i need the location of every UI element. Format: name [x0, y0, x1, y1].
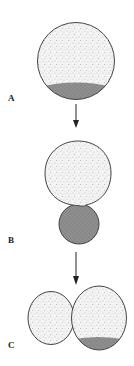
stage-b-cell [45, 141, 111, 244]
stage-b-main-cell [45, 141, 111, 206]
stage-label-c: C [8, 341, 15, 350]
stage-b-polar-lobe [59, 204, 99, 244]
arrow-down-icon [73, 252, 79, 285]
stage-label-b: B [8, 236, 14, 245]
stage-c-dark-region [60, 337, 134, 360]
stage-a-cell [30, 23, 122, 111]
stage-c-two-cell [28, 286, 134, 360]
stage-label-a: A [8, 94, 15, 103]
arrow-down-icon [73, 104, 79, 128]
stage-c-left-blastomere [28, 292, 74, 345]
embryo-cleavage-diagram [0, 0, 134, 366]
